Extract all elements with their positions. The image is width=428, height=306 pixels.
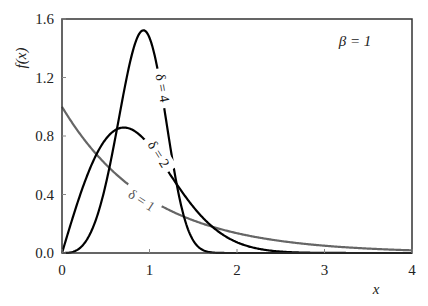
ticks-layer: 012340.00.40.81.21.6	[35, 11, 416, 278]
y-tick-label: 1.6	[35, 11, 54, 27]
curve-label-group: δ = 4	[152, 67, 176, 109]
x-tick-label: 2	[233, 262, 241, 278]
y-tick-label: 0.8	[35, 128, 54, 144]
curves-layer	[62, 30, 412, 253]
curve-delta-1	[62, 107, 412, 251]
y-axis-title: f(x)	[13, 48, 30, 69]
plot-frame	[62, 19, 412, 253]
curve-delta-4	[62, 30, 412, 253]
x-tick-label: 0	[58, 262, 66, 278]
x-tick-label: 3	[321, 262, 329, 278]
beta-annotation: β = 1	[338, 33, 372, 49]
y-tick-label: 0.4	[35, 187, 54, 203]
x-axis-title: x	[372, 281, 380, 297]
x-tick-label: 4	[408, 262, 416, 278]
y-tick-label: 0.0	[35, 245, 54, 261]
x-tick-label: 1	[146, 262, 154, 278]
y-tick-label: 1.2	[35, 70, 54, 86]
curve-label-group: δ = 1	[121, 182, 164, 218]
weibull-density-chart: 012340.00.40.81.21.6 δ = 4δ = 2δ = 1 f(x…	[0, 0, 428, 306]
